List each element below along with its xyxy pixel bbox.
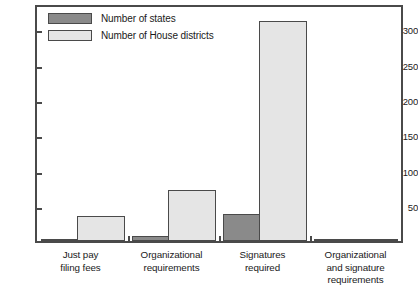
x-axis-label-line: requirements [126,262,217,275]
chart-legend: Number of states Number of House distric… [48,13,214,41]
x-axis-labels: Just pay filing fees Organizational requ… [35,249,403,292]
x-axis-label-organizational-and-signature-requirements: Organizational and signature requirement… [308,249,403,287]
legend-swatch-icon-states [48,13,92,24]
legend-label-states: Number of states [101,13,176,24]
bar-districts-organizational-and-signature-requirements [350,239,398,241]
legend-item-states: Number of states [48,13,214,24]
x-axis-group-separator [219,236,221,243]
legend-label-house-districts: Number of House districts [101,30,214,41]
bar-group-organizational-requirements [128,7,219,241]
x-axis-label-line: Organizational [308,249,403,262]
x-axis-label-line: Organizational [126,249,217,262]
x-axis-label-signatures-required: Signatures required [217,249,308,274]
bar-districts-organizational-requirements [168,190,216,241]
x-axis-label-line: filing fees [35,262,126,275]
x-axis-label-line: Just pay [35,249,126,262]
x-axis-label-line: and signature [308,262,403,275]
bar-group-just-pay-filing-fees [37,7,128,241]
x-axis-label-line: required [217,262,308,275]
x-axis-group-separator [310,236,312,243]
legend-swatch-icon-house-districts [48,30,92,41]
x-axis-group-separator [128,236,130,243]
x-axis-label-line: requirements [308,274,403,287]
bar-chart: 300 250 200 150 100 50 [0,0,418,292]
bars-container [37,7,401,241]
x-axis-label-just-pay-filing-fees: Just pay filing fees [35,249,126,274]
bar-districts-signatures-required [259,21,307,241]
bar-districts-just-pay-filing-fees [77,216,125,241]
x-axis-label-organizational-requirements: Organizational requirements [126,249,217,274]
bar-group-organizational-and-signature-requirements [310,7,401,241]
x-axis-label-line: Signatures [217,249,308,262]
bar-group-signatures-required [219,7,310,241]
legend-item-house-districts: Number of House districts [48,30,214,41]
